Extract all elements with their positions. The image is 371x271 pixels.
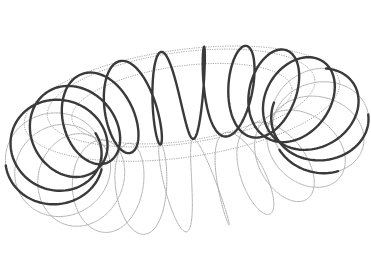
toroidal-helix-svg xyxy=(0,0,371,271)
helix-front-segment xyxy=(11,46,359,191)
toroidal-helix-figure xyxy=(0,0,371,271)
helix-back-segment xyxy=(15,96,364,234)
